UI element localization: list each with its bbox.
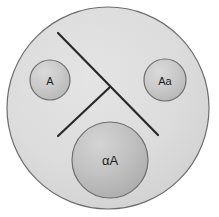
- figure-container: A Aa αA: [0, 0, 219, 217]
- node-aa-circle: [144, 59, 186, 101]
- node-aa: Aa: [144, 59, 186, 101]
- node-a-circle: [30, 60, 70, 100]
- node-a: A: [30, 60, 70, 100]
- cell-diagram-svg: A Aa αA: [0, 0, 219, 217]
- node-alpha-a: αA: [72, 122, 148, 198]
- node-alpha-a-circle: [72, 122, 148, 198]
